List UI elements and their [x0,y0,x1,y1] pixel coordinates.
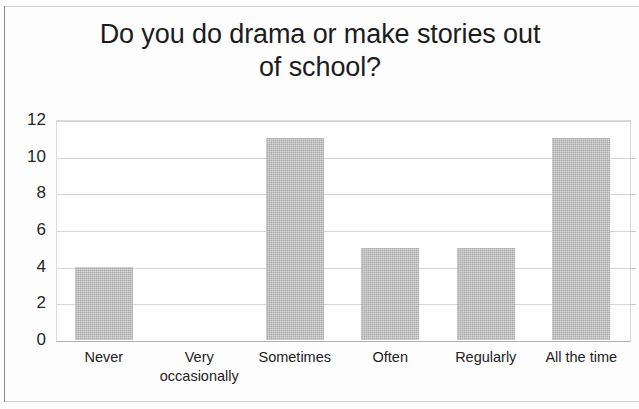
chart-title-line-2: of school? [40,51,600,84]
x-axis-label-line: Sometimes [247,348,343,367]
bar-slot [438,120,534,340]
x-axis-labels: NeverVeryoccasionallySometimesOftenRegul… [56,348,629,404]
chart-page: Do you do drama or make stories out of s… [0,0,639,409]
bar-slot [56,120,152,340]
bar-slot [152,120,248,340]
x-axis-label: Often [343,348,439,367]
y-tick-label-4: 4 [6,257,46,277]
bar [457,248,515,340]
x-axis-label: Never [56,348,152,367]
y-tick-label-12: 12 [6,110,46,130]
y-axis: 121086420 [0,120,46,340]
x-axis-label-line: Very [152,348,248,367]
bar [361,248,419,340]
x-axis-label: All the time [534,348,630,367]
y-tick-mark-4 [630,268,636,269]
y-tick-label-2: 2 [6,293,46,313]
y-tick-label-6: 6 [6,220,46,240]
y-tick-mark-2 [630,304,636,305]
y-tick-mark-8 [630,194,636,195]
bar [266,138,324,340]
x-axis-label-line: occasionally [152,367,248,386]
chart-title-line-1: Do you do drama or make stories out [40,18,600,51]
x-axis-label-line: All the time [534,348,630,367]
bar-slot [247,120,343,340]
bar [75,267,133,340]
bar-series [56,120,629,340]
x-axis-label-line: Regularly [438,348,534,367]
y-tick-label-0: 0 [6,330,46,350]
x-axis-label: Regularly [438,348,534,367]
bar [552,138,610,340]
x-axis-label: Sometimes [247,348,343,367]
x-axis-label: Veryoccasionally [152,348,248,386]
x-axis-line [57,341,630,342]
y-tick-label-10: 10 [6,147,46,167]
chart-title: Do you do drama or make stories out of s… [40,18,600,84]
bar-slot [343,120,439,340]
x-axis-label-line: Never [56,348,152,367]
page-frame-top-edge [5,6,639,7]
y-tick-mark-10 [630,158,636,159]
y-tick-mark-6 [630,231,636,232]
bar-slot [534,120,630,340]
x-axis-label-line: Often [343,348,439,367]
y-tick-label-8: 8 [6,183,46,203]
